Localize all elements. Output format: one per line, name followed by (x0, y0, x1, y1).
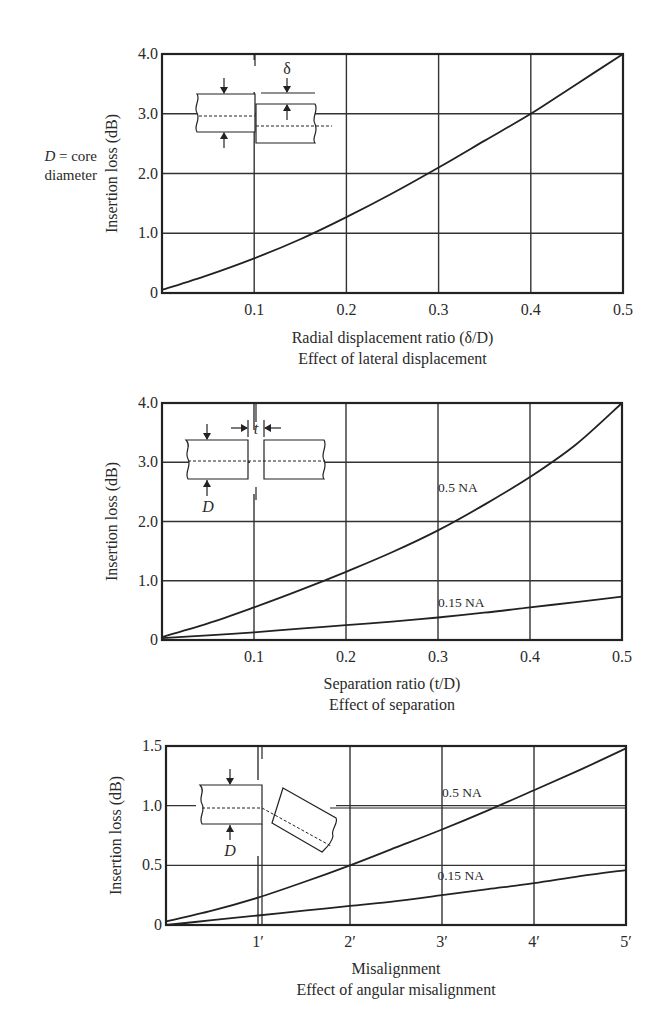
y-tick-label: 0 (150, 631, 158, 648)
chart-1-title: Effect of lateral displacement (162, 348, 623, 369)
x-tick-label: 3′ (436, 933, 448, 950)
charts-canvas: δ0.10.20.30.40.501.02.03.04.0Insertion l… (0, 0, 665, 1030)
x-tick-label: 0.1 (244, 301, 264, 318)
x-tick-label: 0.1 (244, 648, 264, 665)
x-tick-label: 0.2 (336, 301, 356, 318)
x-tick-label: 0.2 (336, 648, 356, 665)
x-tick-label: 1′ (252, 933, 264, 950)
y-tick-label: 1.0 (142, 797, 162, 814)
chart-2-xlabel: Separation ratio (t/D) (162, 673, 622, 694)
chart-1-xlabel: Radial displacement ratio (δ/D) (162, 327, 623, 348)
d-label: D (201, 498, 214, 515)
x-tick-label: 4′ (528, 933, 540, 950)
x-tick-label: 2′ (344, 933, 356, 950)
x-tick-label: 0.3 (429, 301, 449, 318)
y-tick-label: 4.0 (138, 394, 158, 411)
chart-lateral-displacement: δ0.10.20.30.40.501.02.03.04.0Insertion l… (103, 45, 633, 318)
chart-3-xlabel: Misalignment (166, 958, 626, 979)
chart-1-caption: Radial displacement ratio (δ/D) Effect o… (162, 327, 623, 369)
y-axis-label: Insertion loss (dB) (107, 776, 125, 895)
series-curve-0-15-na (166, 870, 626, 925)
y-tick-label: 2.0 (138, 513, 158, 530)
angular-misalignment-inset: D (196, 746, 626, 925)
delta-label: δ (283, 60, 291, 77)
y-axis-label: Insertion loss (dB) (103, 114, 121, 233)
x-tick-label: 0.3 (428, 648, 448, 665)
y-tick-label: 1.5 (142, 737, 162, 754)
y-tick-label: 3.0 (138, 105, 158, 122)
y-tick-label: 4.0 (138, 45, 158, 62)
separation-inset: tD (186, 403, 325, 515)
x-tick-label: 0.4 (520, 648, 540, 665)
x-tick-label: 5′ (620, 933, 632, 950)
y-tick-label: 1.0 (138, 572, 158, 589)
x-tick-label: 0.4 (521, 301, 541, 318)
chart-3-title: Effect of angular misalignment (166, 979, 626, 1000)
y-tick-label: 0.5 (142, 856, 162, 873)
x-tick-label: 0.5 (612, 648, 632, 665)
series-curve (162, 54, 623, 290)
y-tick-label: 3.0 (138, 453, 158, 470)
chart-2-caption: Separation ratio (t/D) Effect of separat… (162, 673, 622, 715)
x-tick-label: 0.5 (613, 301, 633, 318)
y-tick-label: 0 (154, 916, 162, 933)
series-label: 0.15 NA (437, 868, 484, 883)
chart-separation: tD0.10.20.30.40.501.02.03.04.0Insertion … (103, 394, 632, 665)
chart-angular-misalignment: D1′2′3′4′5′00.51.01.5Insertion loss (dB)… (107, 737, 632, 950)
y-tick-label: 0 (150, 284, 158, 301)
y-axis-label: Insertion loss (dB) (103, 462, 121, 581)
d-label: D (223, 842, 236, 859)
series-curve-0-15-na (162, 597, 622, 639)
series-label: 0.5 NA (438, 480, 478, 495)
lateral-displacement-inset: δ (196, 54, 332, 148)
series-label: 0.15 NA (438, 595, 485, 610)
chart-3-caption: Misalignment Effect of angular misalignm… (166, 958, 626, 1000)
series-label: 0.5 NA (442, 785, 482, 800)
t-label: t (254, 420, 259, 437)
chart-2-title: Effect of separation (162, 694, 622, 715)
y-tick-label: 2.0 (138, 165, 158, 182)
y-tick-label: 1.0 (138, 224, 158, 241)
series-curve-0-5-na (162, 403, 622, 637)
